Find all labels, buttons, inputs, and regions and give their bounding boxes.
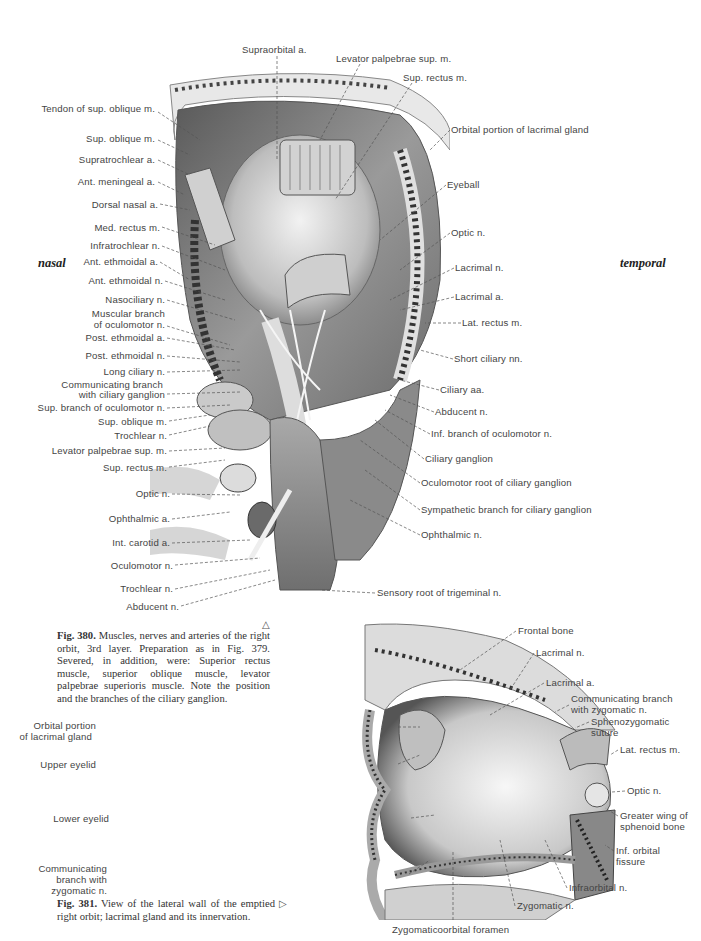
figure-381-caption: Fig. 381. View of the lateral wall of th… (57, 898, 275, 923)
figure-381-leader-lines (0, 0, 701, 941)
figure-381-number: Fig. 381. (57, 898, 97, 909)
atlas-page: nasal temporal Supraorbital a. Levator p… (0, 0, 701, 941)
figure-381-pointer-icon: ▷ (279, 898, 287, 909)
